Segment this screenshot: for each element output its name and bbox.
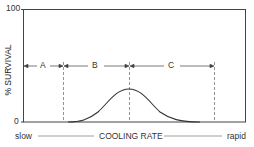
region-c-label: C	[168, 60, 174, 70]
y-axis-label: % SURVIVAL	[3, 44, 13, 95]
region-a-label: A	[40, 60, 46, 70]
survival-vs-cooling-rate-diagram: % SURVIVAL	[0, 0, 254, 147]
survival-curve	[68, 89, 200, 122]
x-axis-rapid-label: rapid	[227, 131, 246, 141]
region-b-label: B	[92, 60, 98, 70]
x-axis-title: COOLING RATE	[99, 131, 163, 141]
y-tick-label-0: 0	[14, 116, 19, 126]
x-axis-slow-label: slow	[15, 131, 32, 141]
y-tick-label-100: 100	[6, 3, 20, 13]
